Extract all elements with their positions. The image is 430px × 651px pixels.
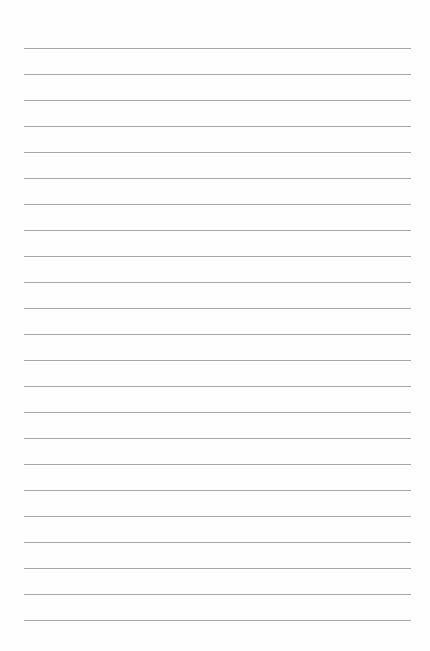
ruled-line xyxy=(24,464,411,465)
lined-paper-page xyxy=(0,0,430,651)
ruled-line xyxy=(24,360,411,361)
ruled-line xyxy=(24,490,411,491)
ruled-line xyxy=(24,542,411,543)
ruled-line xyxy=(24,100,411,101)
ruled-line xyxy=(24,516,411,517)
ruled-line xyxy=(24,152,411,153)
ruled-line xyxy=(24,438,411,439)
ruled-line xyxy=(24,594,411,595)
ruled-line xyxy=(24,48,411,49)
ruled-line xyxy=(24,230,411,231)
ruled-line xyxy=(24,412,411,413)
ruled-line xyxy=(24,178,411,179)
ruled-line xyxy=(24,204,411,205)
ruled-line xyxy=(24,282,411,283)
ruled-line xyxy=(24,126,411,127)
ruled-line xyxy=(24,74,411,75)
ruled-line xyxy=(24,386,411,387)
ruled-line xyxy=(24,334,411,335)
ruled-line xyxy=(24,568,411,569)
ruled-line xyxy=(24,620,411,621)
ruled-line xyxy=(24,256,411,257)
ruled-line xyxy=(24,308,411,309)
